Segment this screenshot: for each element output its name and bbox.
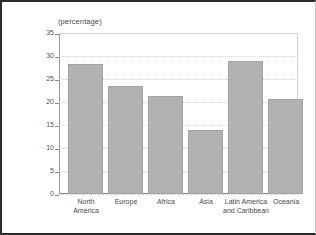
gridline-30 (59, 56, 298, 57)
y-tick-label-10: 10 (32, 144, 54, 152)
bar-north-america (68, 64, 103, 194)
y-tick-label-20: 20 (32, 98, 54, 106)
tick-mark-15 (55, 126, 59, 127)
bar-asia (188, 130, 223, 194)
y-tick-label-25: 25 (32, 75, 54, 83)
chart-title: (percentage) (58, 17, 102, 26)
x-axis-tick-labels: North America Europe Africa Asia Latin A… (59, 197, 298, 227)
tick-mark-5 (55, 172, 59, 173)
bar-oceania (268, 99, 303, 194)
bar-latin-america (228, 61, 263, 194)
y-tick-label-35: 35 (32, 29, 54, 37)
tick-mark-30 (55, 57, 59, 58)
figure-page: (percentage) 0 5 10 15 20 25 30 35 (0, 0, 316, 235)
gridline-0 (59, 194, 298, 195)
x-tick-label-oceania: Oceania (251, 197, 316, 206)
y-tick-label-5: 5 (32, 167, 54, 175)
bar-chart-figure: (percentage) 0 5 10 15 20 25 30 35 (2, 2, 315, 233)
plot-area (59, 33, 298, 194)
y-tick-label-15: 15 (32, 121, 54, 129)
bar-africa (148, 96, 183, 194)
tick-mark-25 (55, 80, 59, 81)
tick-mark-10 (55, 149, 59, 150)
y-tick-label-30: 30 (32, 52, 54, 60)
bar-europe (108, 86, 143, 194)
tick-mark-0 (55, 195, 59, 196)
tick-mark-35 (55, 34, 59, 35)
tick-mark-20 (55, 103, 59, 104)
gridline-35 (59, 33, 298, 34)
